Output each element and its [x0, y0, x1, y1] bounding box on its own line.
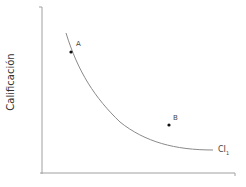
curve-label-subscript: 1	[226, 150, 229, 156]
diagram-canvas	[0, 0, 246, 187]
point-a-label: A	[76, 40, 81, 48]
y-axis-label: Calificación	[5, 53, 16, 110]
point-a-marker	[69, 50, 72, 53]
curve-label-main: CI	[218, 145, 226, 154]
point-b-marker	[167, 123, 170, 126]
curve-label: CI1	[218, 145, 229, 156]
indifference-curve	[66, 33, 213, 150]
point-b-label: B	[173, 114, 178, 122]
